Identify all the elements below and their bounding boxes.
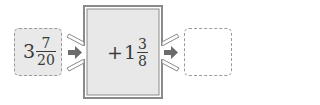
right-arrow-icon bbox=[68, 46, 82, 59]
output-box[interactable] bbox=[184, 28, 232, 76]
right-arrow-icon bbox=[164, 46, 178, 59]
